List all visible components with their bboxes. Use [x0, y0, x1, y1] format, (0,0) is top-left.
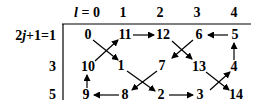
header-col-3: 3: [194, 6, 201, 20]
edge-7-8: [132, 71, 157, 90]
node-7: 7: [159, 59, 166, 73]
node-9: 9: [83, 88, 90, 102]
header-l-label: l = 0: [74, 6, 100, 20]
edge-6-7: [172, 40, 193, 58]
node-1: 1: [118, 59, 125, 73]
node-3: 3: [197, 88, 204, 102]
node-12: 12: [156, 28, 170, 42]
row-label-3: 3: [49, 60, 56, 74]
header-col-4: 4: [231, 6, 238, 20]
node-4: 4: [231, 60, 238, 74]
diagram-lines: [0, 0, 261, 109]
node-13: 13: [192, 60, 206, 74]
node-8: 8: [122, 88, 129, 102]
header-col-2: 2: [157, 6, 164, 20]
edge-1-2: [127, 71, 155, 91]
edge-13-14: [206, 72, 229, 90]
node-10: 10: [81, 60, 95, 74]
edge-3-4: [210, 72, 230, 90]
header-col-1: 1: [120, 6, 127, 20]
node-14: 14: [229, 88, 243, 102]
node-2: 2: [158, 88, 165, 102]
node-5: 5: [232, 28, 239, 42]
row-label-1: 2j+1=1: [15, 29, 56, 43]
node-11: 11: [118, 28, 131, 42]
path-diagram: l = 0 1 2 3 4 2j+1=1 3 5 0 11 12 6 5 10 …: [0, 0, 261, 109]
node-0: 0: [85, 28, 92, 42]
row-label-5: 5: [49, 88, 56, 102]
node-6: 6: [196, 28, 203, 42]
